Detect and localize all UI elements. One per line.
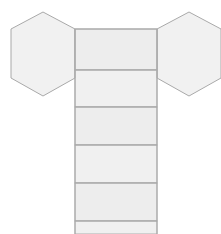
- rectangle-face-4: [75, 145, 157, 183]
- rectangle-face-6: [75, 221, 157, 234]
- rectangle-face-5: [75, 183, 157, 221]
- rectangle-face-3: [75, 107, 157, 145]
- rectangle-face-1: [75, 29, 157, 70]
- hexagon-face-right: [157, 12, 221, 96]
- hexagonal-prism-net-figure: [0, 0, 221, 234]
- hexagon-face-left: [11, 12, 75, 96]
- rectangle-face-2: [75, 70, 157, 107]
- diagram-canvas: figure: net of a hexagonal prism: [0, 0, 221, 234]
